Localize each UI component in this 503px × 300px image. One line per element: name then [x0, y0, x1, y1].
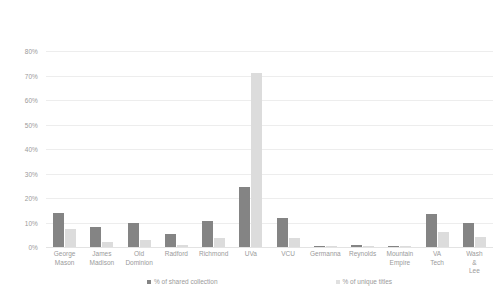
x-tick-label: Old Dominion: [121, 250, 158, 276]
gridline: [46, 247, 493, 248]
bar[interactable]: [289, 238, 300, 247]
legend-swatch-icon: [147, 280, 151, 284]
bar[interactable]: [165, 234, 176, 247]
bar[interactable]: [140, 240, 151, 247]
y-tick-label: 20%: [25, 195, 38, 202]
bar-group: [121, 51, 158, 247]
bar[interactable]: [438, 232, 449, 247]
bar[interactable]: [239, 187, 250, 247]
bar[interactable]: [363, 246, 374, 247]
chart-legend: % of shared collection% of unique titles: [46, 278, 493, 285]
bar[interactable]: [102, 242, 113, 247]
bar[interactable]: [326, 246, 337, 247]
bar-group: [195, 51, 232, 247]
bar-chart: 80%70%60%50%40%30%20%10%0% George MasonJ…: [0, 0, 503, 300]
y-tick-label: 40%: [25, 146, 38, 153]
legend-swatch-icon: [336, 280, 340, 284]
bar[interactable]: [65, 229, 76, 247]
plot-area: [46, 51, 493, 247]
x-tick-label: Reynolds: [344, 250, 381, 276]
bar[interactable]: [277, 218, 288, 247]
bar[interactable]: [202, 221, 213, 247]
bar-group: [83, 51, 120, 247]
bar[interactable]: [426, 214, 437, 247]
y-tick-label: 60%: [25, 97, 38, 104]
bar[interactable]: [128, 223, 139, 248]
legend-label: % of shared collection: [154, 278, 218, 285]
bar-group: [456, 51, 493, 247]
bar[interactable]: [475, 237, 486, 247]
x-tick-label: VA Tech: [419, 250, 456, 276]
y-tick-label: 70%: [25, 72, 38, 79]
bar[interactable]: [251, 73, 262, 247]
x-tick-label: UVa: [232, 250, 269, 276]
bar[interactable]: [351, 245, 362, 247]
legend-item[interactable]: % of shared collection: [147, 278, 218, 285]
x-tick-label: Mountain Empire: [381, 250, 418, 276]
bar[interactable]: [400, 246, 411, 247]
y-tick-label: 30%: [25, 170, 38, 177]
bar[interactable]: [177, 245, 188, 247]
bar-group: [344, 51, 381, 247]
y-tick-label: 50%: [25, 121, 38, 128]
x-tick-label: Radford: [158, 250, 195, 276]
x-tick-label: Germanna: [307, 250, 344, 276]
x-tick-label: Richmond: [195, 250, 232, 276]
bar-group: [232, 51, 269, 247]
x-tick-label: James Madison: [83, 250, 120, 276]
bar-group: [158, 51, 195, 247]
bar-group: [419, 51, 456, 247]
bar[interactable]: [90, 227, 101, 247]
bar-group: [270, 51, 307, 247]
bar[interactable]: [463, 223, 474, 248]
bar[interactable]: [214, 238, 225, 247]
y-tick-label: 10%: [25, 219, 38, 226]
bar-group: [307, 51, 344, 247]
x-tick-label: Wash & Lee: [456, 250, 493, 276]
bar-group: [46, 51, 83, 247]
y-axis: 80%70%60%50%40%30%20%10%0%: [0, 51, 42, 247]
y-tick-label: 0%: [28, 244, 38, 251]
legend-item[interactable]: % of unique titles: [336, 278, 393, 285]
bar[interactable]: [388, 246, 399, 247]
bar-groups: [46, 51, 493, 247]
legend-label: % of unique titles: [343, 278, 393, 285]
bar[interactable]: [53, 213, 64, 247]
x-tick-label: George Mason: [46, 250, 83, 276]
x-axis: George MasonJames MadisonOld DominionRad…: [46, 250, 493, 276]
x-tick-label: VCU: [270, 250, 307, 276]
y-tick-label: 80%: [25, 48, 38, 55]
bar[interactable]: [314, 246, 325, 247]
bar-group: [381, 51, 418, 247]
